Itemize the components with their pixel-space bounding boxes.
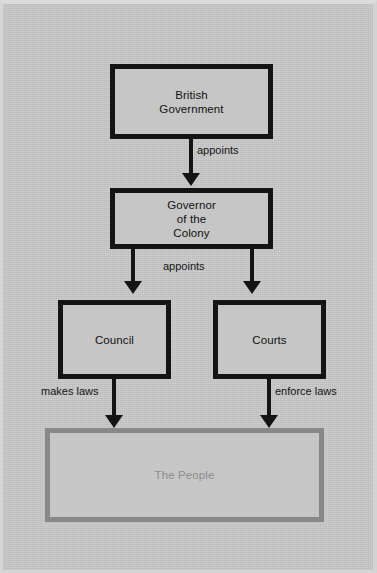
- connector-courts-to-people: [267, 379, 271, 417]
- edge-label-appoints-british: appoints: [197, 144, 239, 157]
- arrowhead-council-to-people: [105, 415, 123, 428]
- node-the-people: The People: [45, 428, 324, 522]
- node-council: Council: [58, 300, 171, 379]
- edge-label-enforce-laws: enforce laws: [275, 385, 337, 398]
- government-hierarchy-diagram: British Government appoints Governor of …: [3, 4, 373, 570]
- edge-label-makes-laws: makes laws: [41, 385, 98, 398]
- node-governor-line3: Colony: [167, 226, 216, 240]
- arrowhead-british-to-governor: [182, 173, 200, 186]
- node-british-government-line1: British: [159, 88, 223, 102]
- arrowhead-governor-to-courts: [243, 281, 261, 294]
- node-the-people-label: The People: [155, 468, 215, 482]
- scanned-page: British Government appoints Governor of …: [0, 0, 377, 573]
- node-british-government: British Government: [110, 64, 273, 139]
- connector-governor-to-council: [131, 249, 135, 281]
- edge-label-appoints-governor: appoints: [163, 260, 205, 273]
- node-governor-line2: of the: [167, 212, 216, 226]
- connector-british-to-governor: [189, 139, 193, 175]
- node-courts: Courts: [213, 300, 326, 379]
- node-courts-label: Courts: [252, 333, 286, 347]
- node-governor-line1: Governor: [167, 198, 216, 212]
- connector-council-to-people: [112, 379, 116, 417]
- arrowhead-governor-to-council: [124, 281, 142, 294]
- node-council-label: Council: [95, 333, 134, 347]
- node-british-government-line2: Government: [159, 102, 223, 116]
- arrowhead-courts-to-people: [260, 415, 278, 428]
- connector-governor-to-courts: [250, 249, 254, 281]
- node-governor-of-the-colony: Governor of the Colony: [110, 188, 273, 249]
